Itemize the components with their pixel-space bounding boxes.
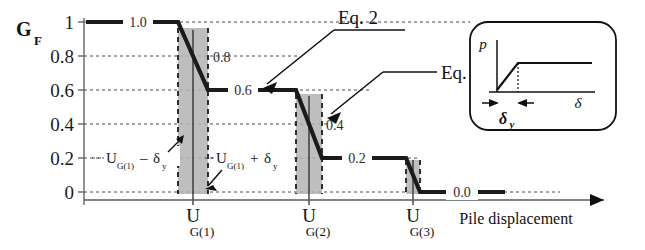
value-label-ramp-1: 0.8 [213,50,231,65]
inset-x-axis-label: δ [575,95,583,111]
left-annotation-operator: – [139,150,148,166]
x-axis-title: Pile displacement [459,210,573,228]
value-label-plateau-2: 0.6 [234,83,252,98]
x-tick-ug3-main: U [406,205,420,226]
value-label-plateau-1: 1.0 [129,15,147,30]
y-tick-label-0.4: 0.4 [50,114,74,135]
y-axis-title: G [16,18,32,40]
inset-delta-y-label: δ [499,110,507,127]
left-annotation-delta: δ [153,150,160,166]
x-tick-ug3-sub: G(3) [410,224,435,239]
left-annotation-delta-sub: y [162,161,167,171]
inset-panel-border [470,22,616,130]
x-tick-ug1-main: U [186,205,200,226]
inset-panel: p δ δ y [470,22,616,130]
y-tick-label-0.2: 0.2 [50,148,74,169]
right-annotation-delta-sub: y [273,161,278,171]
value-label-plateau-3: 0.2 [348,151,366,166]
y-tick-label-0.6: 0.6 [50,80,74,101]
right-annotation-u-sub: G(1) [227,161,244,171]
inset-delta-y-subscript: y [508,118,515,130]
x-tick-ug2-sub: G(2) [306,224,331,239]
gf-pile-displacement-chart: 1 0.8 0.6 0.4 0.2 0 G F Pile displacemen… [0,0,645,250]
y-axis-title-subscript: F [34,33,42,48]
y-tick-label-0.8: 0.8 [50,46,74,67]
left-annotation-u-sub: G(1) [117,161,134,171]
right-annotation-operator: + [250,150,258,166]
right-annotation-delta: δ [264,150,271,166]
eq2-label: Eq. 2 [338,7,378,28]
inset-y-axis-label: p [478,36,487,52]
figure-root: 1 0.8 0.6 0.4 0.2 0 G F Pile displacemen… [0,0,645,250]
x-tick-ug2-main: U [302,205,316,226]
x-tick-ug1-sub: G(1) [190,224,215,239]
left-annotation-u: U [106,150,117,166]
y-tick-label-0: 0 [65,182,75,203]
value-label-plateau-4: 0.0 [453,185,471,200]
y-tick-label-1: 1 [65,12,75,33]
right-annotation-u: U [216,150,227,166]
